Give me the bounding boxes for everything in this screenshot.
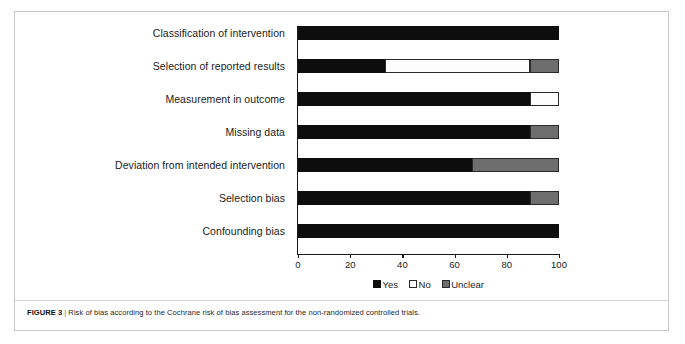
caption-figure-number: FIGURE 3 (27, 308, 62, 317)
x-axis-tick-label: 0 (295, 259, 300, 270)
category-label-1: Selection of reported results (153, 59, 285, 73)
table-row (298, 59, 559, 73)
category-label-0: Classification of intervention (153, 26, 285, 40)
legend-label-yes: Yes (383, 279, 399, 290)
y-axis-category-labels: Classification of intervention Selection… (15, 26, 291, 254)
x-axis-tick-label: 60 (449, 259, 460, 270)
x-axis-tick (455, 255, 456, 258)
x-axis-tick-label: 20 (345, 259, 356, 270)
table-row (298, 92, 559, 106)
category-label-3: Missing data (225, 125, 285, 139)
legend-item-yes: Yes (373, 279, 398, 290)
chart-region: Classification of intervention Selection… (15, 12, 668, 295)
plot-area (298, 26, 559, 254)
x-axis-tick-label: 80 (502, 259, 513, 270)
x-axis-tick (402, 255, 403, 258)
caption-divider (15, 300, 668, 301)
bar-segment-yes (298, 158, 472, 172)
legend-swatch-no-icon (409, 280, 417, 288)
x-axis: 020406080100 (298, 254, 559, 276)
table-row (298, 158, 559, 172)
bar-segment-yes (298, 59, 385, 73)
bar-segment-unclear (530, 125, 559, 139)
caption-body: Risk of bias according to the Cochrane r… (68, 308, 420, 317)
legend-item-unclear: Unclear (442, 279, 484, 290)
legend-swatch-unclear-icon (442, 280, 450, 288)
x-axis-tick (298, 255, 299, 258)
legend-swatch-yes-icon (373, 280, 381, 288)
table-row (298, 191, 559, 205)
x-axis-tick (559, 255, 560, 258)
category-label-5: Selection bias (219, 191, 285, 205)
x-axis-tick-label: 100 (551, 259, 567, 270)
bar-segment-yes (298, 26, 559, 40)
legend-label-no: No (419, 279, 431, 290)
legend-label-unclear: Unclear (451, 279, 484, 290)
category-label-6: Confounding bias (202, 224, 285, 238)
bar-segment-yes (298, 92, 530, 106)
table-row (298, 125, 559, 139)
table-row (298, 26, 559, 40)
bar-segment-unclear (472, 158, 559, 172)
table-row (298, 224, 559, 238)
x-axis-line (297, 254, 560, 255)
x-axis-tick (507, 255, 508, 258)
bar-segment-yes (298, 191, 530, 205)
bar-segment-unclear (530, 191, 559, 205)
x-axis-tick (350, 255, 351, 258)
category-label-2: Measurement in outcome (165, 92, 285, 106)
bar-segment-unclear (530, 59, 559, 73)
bar-segment-yes (298, 125, 530, 139)
bar-segment-no (530, 92, 559, 106)
bar-segment-no (385, 59, 530, 73)
chart-legend: Yes No Unclear (298, 276, 559, 292)
x-axis-tick-label: 40 (397, 259, 408, 270)
figure-panel: Classification of intervention Selection… (14, 11, 669, 331)
figure-caption: FIGURE 3|Risk of bias according to the C… (27, 308, 658, 318)
bar-segment-yes (298, 224, 559, 238)
legend-item-no: No (409, 279, 431, 290)
category-label-4: Deviation from intended intervention (115, 158, 285, 172)
